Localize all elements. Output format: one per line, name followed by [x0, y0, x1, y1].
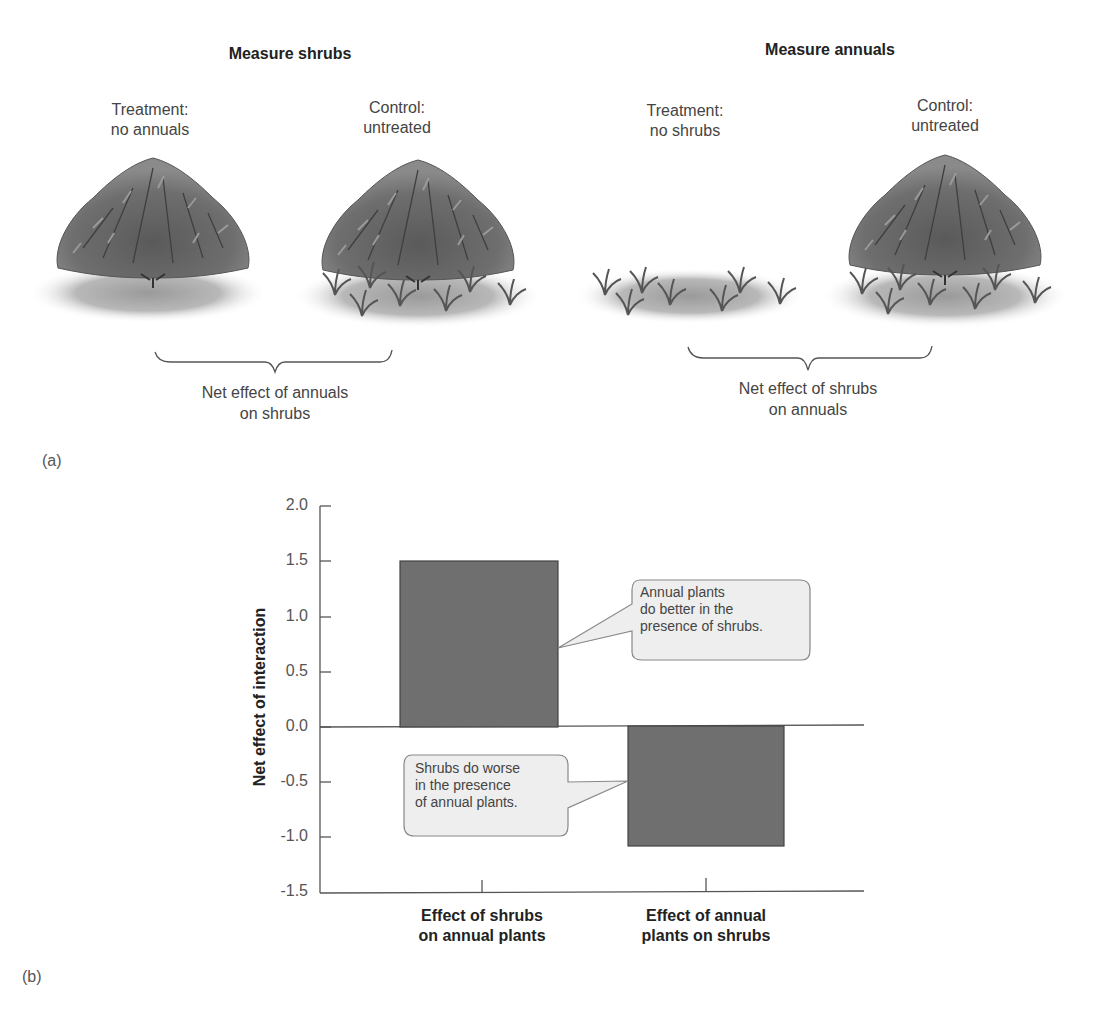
y-tick-label: -1.0 — [258, 827, 308, 845]
y-axis-label: Net effect of interaction — [251, 597, 269, 797]
y-tick-label: 1.5 — [258, 551, 308, 569]
y-tick-label: 2.0 — [258, 496, 308, 514]
panel-b-label: (b) — [22, 968, 42, 986]
x-category-line: on annual plants — [382, 926, 582, 946]
chart-svg — [0, 0, 1096, 1019]
y-ticks — [320, 506, 331, 837]
callout-line: do better in the — [640, 601, 763, 618]
x-category-label: Effect of shrubs on annual plants — [382, 906, 582, 946]
x-category-line: Effect of shrubs — [382, 906, 582, 926]
callout-line: presence of shrubs. — [640, 618, 763, 635]
callout-line: Annual plants — [640, 584, 763, 601]
callout-1-text: Annual plants do better in the presence … — [640, 584, 763, 635]
callout-2-text: Shrubs do worse in the presence of annua… — [415, 760, 520, 811]
callout-line: in the presence — [415, 777, 520, 794]
callout-line: Shrubs do worse — [415, 760, 520, 777]
bar-effect-shrubs-on-annuals — [400, 561, 558, 727]
x-category-line: plants on shrubs — [606, 926, 806, 946]
x-category-label: Effect of annual plants on shrubs — [606, 906, 806, 946]
x-axis — [320, 891, 864, 893]
x-category-line: Effect of annual — [606, 906, 806, 926]
callout-line: of annual plants. — [415, 794, 520, 811]
y-tick-label: -1.5 — [258, 882, 308, 900]
bar-effect-annuals-on-shrubs — [628, 726, 784, 846]
